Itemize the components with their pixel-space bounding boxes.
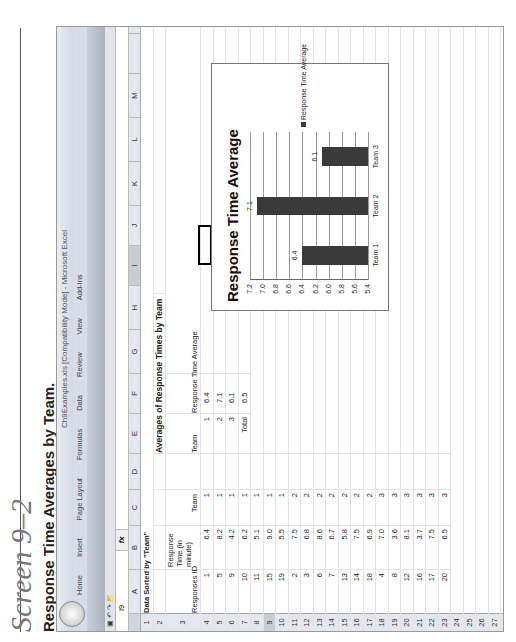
pivot-team[interactable]: 1	[201, 413, 213, 453]
row-header[interactable]: 28	[501, 613, 504, 631]
redo-icon[interactable]: ↷	[106, 604, 113, 610]
fx-icon[interactable]: fx	[116, 529, 128, 550]
cell-response-time[interactable]: 8.6	[314, 525, 326, 569]
cell-response-time[interactable]: 6.4	[201, 525, 213, 569]
col-header-c[interactable]: C	[129, 489, 140, 525]
cell-response-time[interactable]: 5.1	[251, 525, 263, 569]
cell-response-id[interactable]: 3	[301, 569, 313, 613]
cell-response-time[interactable]: 6.5	[439, 525, 451, 569]
cell-response-id[interactable]: 19	[276, 569, 288, 613]
col-header-i[interactable]: I	[129, 245, 140, 285]
cell-response-id[interactable]: 11	[251, 569, 263, 613]
cell-team[interactable]: 2	[364, 489, 376, 525]
row-header[interactable]: 20	[401, 613, 413, 631]
header-response-time[interactable]: Response Time (in minute)	[166, 525, 200, 569]
undo-icon[interactable]: ↶	[106, 612, 113, 618]
cell-response-time[interactable]: 8.1	[401, 525, 413, 569]
cell-team[interactable]: 3	[414, 489, 426, 525]
row-header[interactable]: 14	[326, 613, 338, 631]
open-icon[interactable]: 📂	[106, 593, 113, 602]
bar-1[interactable]	[302, 246, 368, 265]
row-header[interactable]: 3	[166, 613, 200, 631]
tab-view[interactable]: View	[73, 318, 87, 334]
cell-response-id[interactable]: 16	[414, 569, 426, 613]
row-header[interactable]: 5	[214, 613, 226, 631]
cell-team[interactable]: 2	[314, 489, 326, 525]
cell-response-time[interactable]: 6.2	[239, 525, 251, 569]
tab-add-ins[interactable]: Add-Ins	[73, 274, 87, 300]
cell-team[interactable]: 1	[239, 489, 251, 525]
row-header[interactable]: 13	[314, 613, 326, 631]
header-team[interactable]: Team	[166, 489, 200, 525]
col-header-n[interactable]	[129, 33, 140, 73]
cell-team[interactable]: 1	[276, 489, 288, 525]
cell-team[interactable]: 3	[426, 489, 438, 525]
save-icon[interactable]: ▣	[106, 620, 113, 627]
row-header[interactable]: 12	[301, 613, 313, 631]
row-header[interactable]: 17	[364, 613, 376, 631]
cell-response-id[interactable]: 1	[201, 569, 213, 613]
col-header-f[interactable]: F	[129, 373, 140, 413]
response-time-chart[interactable]: Response Time Average 7.27.06.86.66.46.2…	[211, 63, 389, 311]
cell-team[interactable]: 1	[201, 489, 213, 525]
col-header-m[interactable]: M	[129, 73, 140, 117]
cell-response-time[interactable]: 7.5	[289, 525, 301, 569]
pivot-header-team[interactable]: Team	[166, 413, 200, 453]
cell-response-time[interactable]: 5.5	[276, 525, 288, 569]
cell-a1[interactable]: Data Sorted by "Team"	[141, 569, 153, 613]
row-header[interactable]: 11	[289, 613, 301, 631]
cell-response-time[interactable]: 8.2	[214, 525, 226, 569]
cell-response-time[interactable]: 6.9	[364, 525, 376, 569]
cell-team[interactable]: 3	[401, 489, 413, 525]
col-header-l[interactable]: L	[129, 117, 140, 161]
cell-response-time[interactable]: 6.7	[326, 525, 338, 569]
cell-response-id[interactable]: 7	[326, 569, 338, 613]
row-header[interactable]: 19	[389, 613, 401, 631]
row-header[interactable]: 4	[201, 613, 213, 631]
cell-team[interactable]: 2	[339, 489, 351, 525]
cell-response-id[interactable]: 17	[426, 569, 438, 613]
cell-team[interactable]: 3	[376, 489, 388, 525]
pivot-title[interactable]: Averages of Response Times by Team	[154, 293, 166, 453]
pivot-average[interactable]: 6.5	[239, 373, 251, 413]
header-responses-id[interactable]: Responses ID	[166, 569, 200, 613]
col-header-e[interactable]: E	[129, 413, 140, 453]
worksheet-grid[interactable]: A B C D E F G H I J K L M 1 Data Sorted …	[129, 27, 504, 631]
cell-response-id[interactable]: 10	[239, 569, 251, 613]
pivot-header-average[interactable]: Response Time Average	[166, 373, 200, 413]
cell-team[interactable]: 1	[264, 489, 276, 525]
col-header-h[interactable]: H	[129, 285, 140, 329]
row-header[interactable]: 27	[489, 613, 501, 631]
selected-cell-i9[interactable]	[198, 225, 212, 265]
cell-team[interactable]: 1	[226, 489, 238, 525]
cell-response-time[interactable]: 7.0	[376, 525, 388, 569]
tab-formulas[interactable]: Formulas	[73, 429, 87, 460]
pivot-team[interactable]: 3	[226, 413, 238, 453]
row-header[interactable]: 6	[226, 613, 238, 631]
bar-3[interactable]	[322, 147, 368, 166]
cell-response-id[interactable]: 4	[376, 569, 388, 613]
cell-team[interactable]: 1	[251, 489, 263, 525]
pivot-team[interactable]: Total	[239, 413, 251, 453]
tab-insert[interactable]: Insert	[73, 538, 87, 557]
cell-team[interactable]: 2	[326, 489, 338, 525]
pivot-average[interactable]: 6.1	[226, 373, 238, 413]
cell-response-time[interactable]: 7.5	[426, 525, 438, 569]
office-button[interactable]	[59, 601, 85, 627]
row-header[interactable]: 15	[339, 613, 351, 631]
row-header[interactable]: 7	[239, 613, 251, 631]
cell-response-id[interactable]: 9	[226, 569, 238, 613]
row-header[interactable]: 2	[154, 613, 166, 631]
cell-team[interactable]: 2	[351, 489, 363, 525]
cell-response-id[interactable]: 5	[214, 569, 226, 613]
cell-response-id[interactable]: 12	[401, 569, 413, 613]
row-header[interactable]: 25	[464, 613, 476, 631]
tab-page-layout[interactable]: Page Layout	[73, 478, 87, 520]
row-header[interactable]: 22	[426, 613, 438, 631]
cell-response-id[interactable]: 13	[339, 569, 351, 613]
cell-response-id[interactable]: 18	[364, 569, 376, 613]
cell-response-id[interactable]: 14	[351, 569, 363, 613]
cell-response-time[interactable]: 7.5	[351, 525, 363, 569]
cell-response-time[interactable]: 9.0	[264, 525, 276, 569]
col-header-d[interactable]: D	[129, 453, 140, 489]
